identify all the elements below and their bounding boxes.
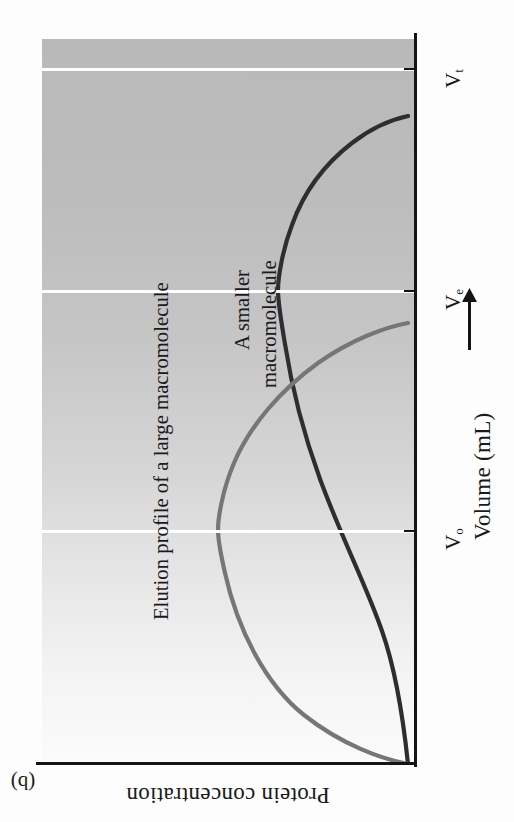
y-axis-title: Protein concentration xyxy=(93,782,363,808)
figure-panel-b: Vt Ve Vo Volume (mL) Elution profile of … xyxy=(0,0,514,822)
annotation-smaller-macromolecule-line2: macromolecule xyxy=(258,260,281,388)
annotation-smaller-macromolecule-line1: A smaller xyxy=(231,270,254,350)
x-axis-arrow-shaft xyxy=(468,298,471,350)
curves-svg xyxy=(42,39,415,764)
y-axis-line xyxy=(36,762,416,765)
gridline-vo xyxy=(42,530,415,533)
tick-label-vt-main: V xyxy=(441,73,465,88)
gridline-vt xyxy=(42,68,415,71)
curve-smaller-macromolecule xyxy=(278,116,408,764)
tick-mark-vt xyxy=(404,68,415,70)
tick-label-vo-sub: o xyxy=(451,528,466,535)
x-axis-title: Volume (mL) xyxy=(470,413,496,540)
x-axis-line xyxy=(414,33,417,767)
curve-large-macromolecule xyxy=(218,323,408,764)
x-axis-arrow-head xyxy=(462,288,478,302)
annotation-smaller-text-2: macromolecule xyxy=(258,260,280,388)
plot-area xyxy=(42,39,415,764)
annotation-smaller-text: A smaller xyxy=(231,270,253,350)
gridline-ve xyxy=(42,290,415,293)
tick-label-vt-sub: t xyxy=(451,69,466,73)
tick-mark-ve xyxy=(404,290,415,292)
annotation-large-macromolecule: Elution profile of a large macromolecule xyxy=(150,282,173,620)
panel-label: (b) xyxy=(6,770,40,795)
tick-label-vo: Vo xyxy=(441,528,467,550)
tick-label-vo-main: V xyxy=(441,535,465,550)
tick-label-vt: Vt xyxy=(441,69,467,88)
tick-mark-vo xyxy=(404,530,415,532)
